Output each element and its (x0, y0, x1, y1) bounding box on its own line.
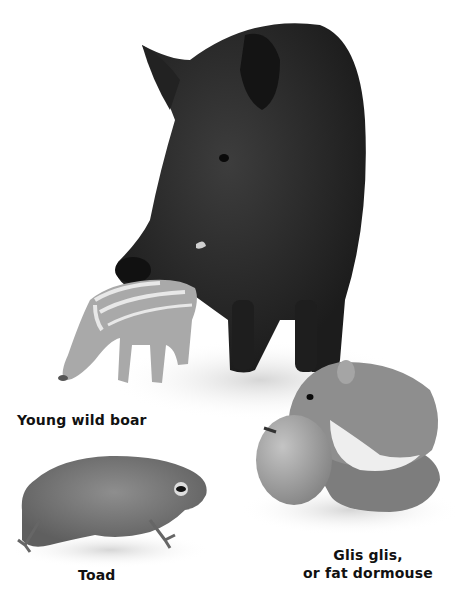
caption-toad: Toad (78, 566, 116, 584)
boar-leg (295, 300, 317, 372)
boar-leg (232, 300, 254, 370)
illustration-canvas: Young wild boar Toad Glis glis, or fat d… (0, 0, 466, 593)
animals-illustration (0, 0, 466, 593)
boar-snout (115, 257, 151, 283)
piglet-snout (58, 375, 68, 381)
caption-dormouse-line2: or fat dormouse (298, 564, 438, 582)
caption-dormouse-line1: Glis glis, (298, 546, 438, 564)
toad-pupil (176, 486, 186, 492)
caption-young-wild-boar: Young wild boar (17, 411, 147, 429)
dormouse-ear (337, 360, 355, 384)
caption-dormouse: Glis glis, or fat dormouse (298, 546, 438, 582)
boar-eye (219, 154, 229, 162)
dormouse-eye (307, 394, 314, 400)
